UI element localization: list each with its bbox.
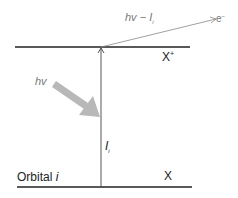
photoionization-diagram: hv − Ii e− X+ hv Ii Orbital i X (0, 0, 238, 198)
ion-level-label: X+ (162, 50, 174, 64)
electron-energy-label: hv − Ii (125, 11, 154, 25)
electron-trajectory-line (101, 19, 216, 47)
photon-arrow (54, 84, 100, 117)
photon-label: hv (35, 75, 47, 87)
neutral-level-label: X (164, 169, 172, 183)
orbital-label: Orbital i (17, 170, 58, 184)
electron-label: e− (216, 13, 225, 24)
ionization-energy-label: Ii (105, 139, 110, 154)
diagram-graphics (0, 0, 238, 198)
